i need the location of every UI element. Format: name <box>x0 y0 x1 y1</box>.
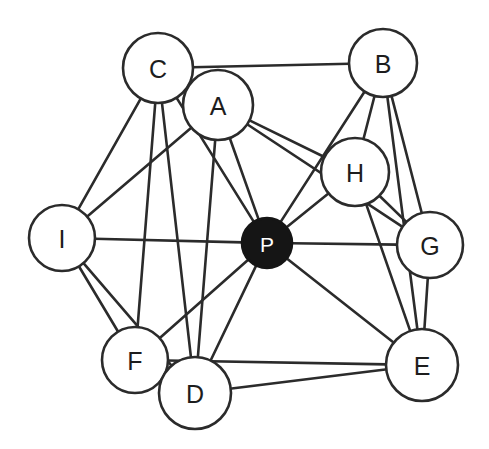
graph-edge-c-i <box>78 98 142 211</box>
graph-edge-a-d <box>198 139 216 358</box>
node-label-a: A <box>210 92 227 120</box>
node-label-g: G <box>420 232 439 260</box>
graph-edge-a-i <box>86 127 192 217</box>
graph-node-p[interactable]: P <box>242 218 292 268</box>
node-label-h: H <box>346 159 364 187</box>
graph-edge-i-p <box>94 239 243 243</box>
node-label-i: I <box>59 225 66 253</box>
graph-edge-c-b <box>192 64 350 68</box>
graph-edge-b-e <box>387 96 417 331</box>
graph-edge-b-h <box>363 95 375 140</box>
graph-edge-c-f <box>138 102 156 328</box>
graph-edge-g-p <box>291 243 398 244</box>
graph-edge-d-e <box>230 369 388 388</box>
graph-node-g[interactable]: G <box>397 212 463 278</box>
graph-edge-p-d <box>210 265 256 362</box>
graph-node-d[interactable]: D <box>159 357 231 429</box>
graph-node-c[interactable]: C <box>123 33 193 103</box>
node-label-p: P <box>260 233 274 256</box>
node-label-f: F <box>127 347 142 375</box>
node-label-d: D <box>186 380 204 408</box>
graph-node-a[interactable]: A <box>183 70 253 140</box>
graph-edge-h-p <box>286 193 330 228</box>
graph-canvas: CABHGIPFDE <box>0 0 489 449</box>
graph-node-f[interactable]: F <box>102 327 168 393</box>
graph-edge-p-e <box>286 258 395 344</box>
node-label-c: C <box>149 55 167 83</box>
node-label-b: B <box>375 50 392 78</box>
graph-node-e[interactable]: E <box>386 329 458 401</box>
graph-edge-i-f <box>78 265 118 332</box>
graph-node-h[interactable]: H <box>321 138 389 206</box>
graph-node-i[interactable]: I <box>29 205 95 271</box>
node-label-e: E <box>414 352 431 380</box>
nodes-layer: CABHGIPFDE <box>29 29 463 429</box>
graph-node-b[interactable]: B <box>349 29 417 97</box>
graph-edge-g-e <box>424 277 428 330</box>
network-graph: CABHGIPFDE <box>0 0 489 449</box>
